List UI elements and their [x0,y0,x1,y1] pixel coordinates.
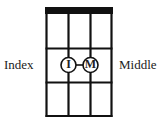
finger-letter-index: I [64,58,73,70]
right-label: Middle [119,58,157,71]
nut [45,7,113,14]
frets [46,49,113,117]
finger-letter-middle: M [84,58,97,70]
left-label: Index [4,58,34,71]
